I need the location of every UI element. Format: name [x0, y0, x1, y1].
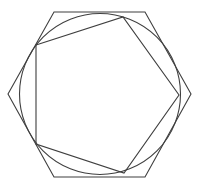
geometry-diagram: [0, 0, 199, 188]
inscribed-circle: [20, 14, 181, 175]
